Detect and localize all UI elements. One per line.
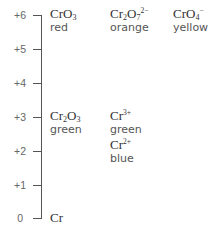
species-cro4: CrO4− yellow [173,7,208,34]
tick-label-plus3: +3 [0,111,26,123]
tick-plus4 [33,83,42,84]
formula-cr: Cr [50,211,63,225]
tick-label-plus1: +1 [0,179,26,191]
tick-plus5 [33,49,42,50]
formula-cr2plus: Cr2+ [110,138,134,152]
tick-label-plus6: +6 [0,9,26,21]
tick-label-plus2: +2 [0,145,26,157]
color-name-orange: orange [110,21,149,34]
formula-cr3plus: Cr3+ [110,109,142,123]
species-cr3plus: Cr3+ green [110,109,142,136]
species-cr-metal: Cr [50,211,63,225]
tick-label-plus5: +5 [0,43,26,55]
species-cr2o7: Cr2O72− orange [110,7,149,34]
formula-cr2o7: Cr2O72− [110,7,149,21]
tick-zero [33,218,42,219]
tick-plus6 [33,15,42,16]
tick-label-plus4: +4 [0,77,26,89]
species-cr2o3: Cr2O3 green [50,109,82,136]
formula-cro4: CrO4− [173,7,208,21]
species-cr2plus: Cr2+ blue [110,138,134,165]
tick-plus1 [33,185,42,186]
species-cro3: CrO3 red [50,7,76,34]
tick-plus2 [33,151,42,152]
tick-label-zero: 0 [0,212,23,224]
color-name-blue: blue [110,152,134,165]
color-name-red: red [50,21,76,34]
formula-cr2o3: Cr2O3 [50,109,82,123]
color-name-green: green [50,123,82,136]
color-name-green: green [110,123,142,136]
color-name-yellow: yellow [173,21,208,34]
tick-plus3 [33,117,42,118]
formula-cro3: CrO3 [50,7,76,21]
